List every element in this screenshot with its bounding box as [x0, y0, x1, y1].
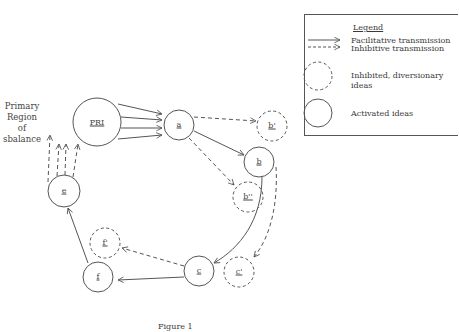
edge-pri-a-1 [118, 104, 162, 114]
figure-caption: Figure 1 [158, 322, 193, 331]
node-pri-label: PRI [90, 118, 105, 127]
edge-f-e [68, 208, 88, 263]
side-label-line-2: Region [0, 112, 48, 123]
edge-a-bdprime [189, 138, 234, 185]
legend-inhibited-label: Inhibited, diversionary ideas [351, 71, 451, 91]
node-b-label: b [256, 157, 261, 166]
edge-a-bprime [194, 117, 256, 121]
edge-c-fprime [122, 248, 184, 266]
node-a-label: a [177, 120, 182, 129]
primary-region-label: Primary Region of sbalance [0, 101, 48, 145]
side-label-line-1: Primary [0, 101, 48, 112]
edge-e-pri-3 [65, 144, 66, 175]
node-f-prime-label: f' [102, 238, 107, 247]
edge-c-f [118, 277, 184, 280]
edge-e-pri-4 [73, 144, 78, 177]
edge-pri-a-4 [118, 135, 162, 139]
node-b-dprime-label: b'' [243, 192, 253, 201]
legend-inhibitive-label: Inhibitive transmission [351, 44, 444, 54]
legend-title: Legend [353, 23, 383, 32]
node-f-label: f [97, 272, 100, 281]
node-b-prime-label: b' [268, 121, 275, 130]
legend-activated-label: Activated ideas [351, 109, 413, 119]
side-label-line-3: of [0, 123, 48, 134]
edge-pri-a-2 [121, 117, 162, 120]
edge-b-cprime [254, 167, 276, 257]
node-c-label: c [197, 266, 201, 275]
edge-e-pri-2 [57, 144, 59, 176]
edge-e-pri-1 [48, 135, 50, 182]
side-label-line-4: sbalance [0, 134, 48, 145]
legend-box: Legend Facilitative transmission Inhibit… [304, 14, 458, 136]
edge-a-b [194, 131, 244, 155]
edge-b-c [214, 177, 262, 263]
node-c-prime-label: c' [236, 267, 243, 276]
node-e-label: e [62, 186, 67, 195]
